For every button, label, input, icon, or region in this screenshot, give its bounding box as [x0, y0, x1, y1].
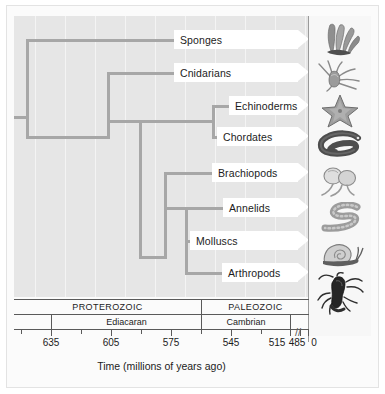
tick-label-605: 605 — [103, 337, 120, 348]
gridline — [275, 16, 276, 297]
branch-arthropods — [185, 272, 222, 275]
taxon-label-arthropods[interactable]: Arthropods — [222, 263, 298, 282]
tree-plot-area — [14, 16, 309, 297]
branch-cnidarians — [107, 72, 174, 75]
period-row: Ediacaran Cambrian — [14, 314, 309, 329]
taxon-name: Molluscs — [196, 235, 238, 247]
taxon-label-brachiopods[interactable]: Brachiopods — [212, 163, 298, 182]
era-paleozoic: PALEOZOIC — [202, 300, 309, 314]
brachiopod-icon — [309, 164, 371, 200]
tick-label-515: 515 — [269, 337, 286, 348]
taxon-name: Arthropods — [228, 267, 280, 279]
branch-protostome-stem — [139, 256, 167, 259]
branch-bilateria — [107, 120, 142, 123]
taxon-label-cnidarians[interactable]: Cnidarians — [174, 63, 298, 82]
axis-tick-545 — [231, 330, 232, 336]
taxon-label-annelids[interactable]: Annelids — [223, 198, 298, 217]
axis-tick-minor — [21, 330, 22, 334]
tick-label-485: 485 — [289, 337, 306, 348]
branch-sponges — [26, 39, 174, 42]
gridline — [65, 16, 66, 297]
animal-illustration-column — [309, 16, 371, 336]
branch-annelids — [185, 207, 223, 210]
taxon-name: Sponges — [180, 34, 222, 46]
branch-deuterostome-stem — [139, 120, 215, 123]
branch-bilateria-vertical — [139, 120, 142, 259]
snail-icon — [309, 235, 371, 271]
tick-label-635: 635 — [43, 337, 60, 348]
axis-tick-605 — [111, 330, 112, 336]
branch-eumetazoa — [26, 136, 110, 139]
axis-tick-635 — [51, 330, 52, 336]
branch-eumetazoa-vertical — [107, 72, 110, 139]
taxon-label-molluscs[interactable]: Molluscs — [190, 231, 298, 250]
time-axis — [14, 329, 309, 335]
eel-icon — [309, 128, 371, 164]
branch-deuterostome-vertical — [212, 105, 215, 139]
branch-protostome-vertical — [164, 172, 167, 259]
taxon-label-chordates[interactable]: Chordates — [217, 127, 298, 146]
axis-tick-0 — [308, 330, 309, 336]
period-ediacaran: Ediacaran — [52, 315, 201, 329]
phylogenetic-tree-figure: Sponges Cnidarians Echinoderms Chordates… — [0, 0, 385, 394]
branch-echinoderms — [212, 105, 229, 108]
axis-tick-575 — [171, 330, 172, 336]
taxon-name: Annelids — [229, 202, 270, 214]
axis-tick-minor — [81, 330, 82, 334]
tick-label-575: 575 — [163, 337, 180, 348]
taxon-name: Echinoderms — [235, 100, 297, 112]
period-divider-right — [290, 315, 291, 330]
sea-anemone-icon — [309, 57, 371, 93]
axis-tick-minor — [201, 330, 202, 334]
sponge-icon — [309, 21, 371, 57]
gridline — [155, 16, 156, 297]
period-cambrian: Cambrian — [202, 315, 290, 329]
time-scale: PROTEROZOIC PALEOZOIC Ediacaran Cambrian — [14, 299, 309, 335]
axis-tick-minor — [141, 330, 142, 334]
axis-tick-labels: 635 605 575 545 515 485 0 — [14, 337, 309, 351]
gridline — [215, 16, 216, 297]
axis-tick-515 — [290, 330, 291, 336]
taxon-name: Chordates — [223, 131, 272, 143]
taxon-label-echinoderms[interactable]: Echinoderms — [229, 96, 298, 115]
lobster-icon — [309, 271, 371, 315]
gridline — [245, 16, 246, 297]
axis-tick-minor — [261, 330, 262, 334]
gridline — [125, 16, 126, 297]
tick-label-545: 545 — [223, 337, 240, 348]
starfish-icon — [309, 93, 371, 129]
taxon-name: Cnidarians — [180, 67, 231, 79]
gridline — [35, 16, 36, 297]
tick-label-0: 0 — [311, 337, 317, 348]
taxon-name: Brachiopods — [218, 167, 277, 179]
era-row: PROTEROZOIC PALEOZOIC — [14, 299, 309, 314]
axis-title: Time (millions of years ago) — [14, 360, 309, 372]
worm-icon — [309, 200, 371, 236]
gridline — [305, 16, 306, 297]
era-proterozoic: PROTEROZOIC — [14, 300, 201, 314]
taxon-label-sponges[interactable]: Sponges — [174, 30, 298, 49]
gridline — [95, 16, 96, 297]
branch-root-vertical — [26, 39, 29, 139]
branch-brachiopods — [164, 172, 212, 175]
